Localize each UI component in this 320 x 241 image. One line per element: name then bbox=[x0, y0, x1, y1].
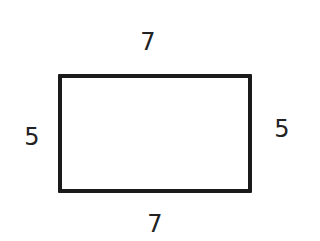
rectangle-shape bbox=[58, 74, 252, 193]
left-side-label: 5 bbox=[24, 125, 39, 149]
bottom-side-label: 7 bbox=[147, 212, 162, 236]
top-side-label: 7 bbox=[140, 30, 155, 54]
right-side-label: 5 bbox=[274, 117, 289, 141]
